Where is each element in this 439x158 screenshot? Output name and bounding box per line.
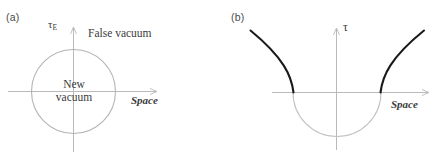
panel-b-vertical-axis-label: τ	[343, 20, 348, 35]
panel-a-new-vacuum-line2: vacuum	[43, 91, 105, 104]
panel-a-false-vacuum-label: False vacuum	[88, 27, 152, 39]
panel-b-graphics	[251, 28, 430, 150]
panel-a-new-vacuum-label: New vacuum	[43, 78, 105, 104]
panel-b-tag: (b)	[231, 11, 244, 23]
panel-b-lorentzian-branch-right	[381, 31, 425, 93]
panel-a-tag: (a)	[6, 11, 19, 23]
panel-a-vertical-axis-label: τE	[48, 18, 57, 32]
panel-a-space-label: Space	[131, 94, 158, 106]
figure-container: (a) τE False vacuum New vacuum Space (b)…	[0, 0, 439, 158]
panel-a-new-vacuum-line1: New	[43, 78, 105, 91]
panel-a-tau-subscript: E	[52, 23, 57, 32]
panel-b-space-label: Space	[391, 98, 418, 110]
panel-b-lorentzian-branch-left	[251, 31, 294, 93]
